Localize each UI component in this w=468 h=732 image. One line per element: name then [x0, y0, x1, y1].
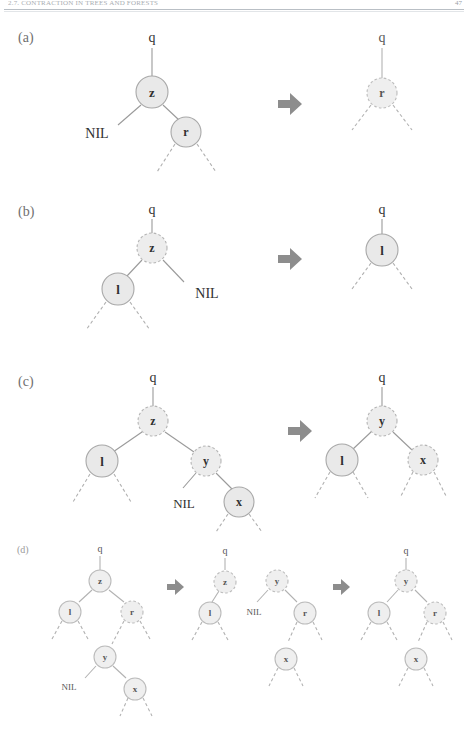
node-l-label-b: l [116, 282, 120, 297]
running-title: 2.7. CONTRACTION IN TREES AND FORESTS [8, 0, 158, 7]
node-z-label-d1: z [98, 576, 102, 586]
edge-l-after-right-b [393, 263, 412, 289]
node-z-label-b: z [149, 241, 155, 255]
label-nil-b: NIL [195, 286, 218, 301]
edge-y-to-l-d3 [387, 590, 398, 602]
edge-z-to-r [163, 105, 179, 120]
edge-x-sub-right-d1 [143, 698, 152, 716]
edge-l-subtree-right-b [130, 302, 150, 330]
figure-panel-d: (d) q z l r y NIL x [0, 536, 468, 732]
edge-x-subtree-right-c [249, 514, 262, 532]
node-x-label-c: x [236, 495, 242, 509]
node-x-after-label-c: x [420, 453, 426, 467]
edge-z-to-nil [118, 105, 141, 125]
edge-l-subtree-left-c [73, 474, 90, 502]
edge-x-sub-left-d1 [120, 698, 128, 716]
edge-x-sub-right-d3 [424, 668, 433, 686]
edge-z-to-l-d2 [212, 591, 219, 602]
label-q-before-c: q [150, 370, 157, 385]
node-r-label-d1: r [130, 607, 134, 617]
label-nil-c: NIL [173, 496, 195, 511]
edge-l-sub-left-d2 [192, 622, 202, 640]
node-l-label-c: l [100, 454, 104, 469]
node-x-label-d3: x [414, 654, 419, 664]
header-rule [4, 9, 464, 10]
node-y-label-c: y [203, 454, 209, 468]
edge-z-to-l-d1 [79, 590, 92, 602]
node-y-after-label-c: y [379, 414, 385, 428]
edge-y-to-x-d1 [113, 666, 126, 678]
label-q-after-b: q [379, 202, 386, 217]
right-arrow-icon [167, 579, 184, 595]
edge-z-to-r-d1 [109, 590, 124, 602]
panel-c-after: q y l x [315, 370, 447, 499]
edge-x-sub-right-d2 [294, 668, 303, 686]
label-nil-d2: NIL [247, 607, 262, 617]
edge-y-to-x-c [216, 473, 232, 489]
edge-r-sub-left-d3 [418, 622, 427, 642]
edge-l-subtree-right-c [114, 474, 131, 502]
node-y-label-d1: y [103, 652, 108, 662]
figure-panel-a: (a) q z NIL r q r [0, 20, 468, 180]
running-header: 2.7. CONTRACTION IN TREES AND FORESTS 47 [0, 0, 468, 12]
edge-l-after-left-b [352, 263, 371, 289]
node-r-label-d3: r [433, 608, 437, 618]
panel-b-after: q l [352, 202, 412, 290]
page-number: 47 [455, 0, 462, 7]
edge-l-after-right-c [353, 472, 368, 498]
edge-l-sub-right-d1 [78, 621, 88, 639]
edge-z-to-l-b [127, 260, 142, 276]
panel-a-diagram: q z NIL r q r [0, 20, 468, 180]
node-y-label-d2: y [275, 576, 280, 586]
edge-r-after-left [352, 105, 371, 130]
edge-l-sub-right-d3 [387, 622, 397, 640]
node-l-after-label-b: l [380, 243, 384, 258]
edge-r-sub-left-d2 [288, 622, 297, 642]
node-z-label-d2: z [223, 577, 227, 587]
edge-r-subtree-left [157, 144, 175, 172]
label-q-d3: q [404, 545, 409, 556]
right-arrow-icon [288, 420, 312, 442]
edge-z-to-l-c [113, 432, 142, 452]
header-rule-secondary [4, 11, 464, 12]
edge-r-sub-left-d1 [112, 621, 124, 644]
panel-b-diagram: q z NIL l q l [0, 192, 468, 352]
edge-r-subtree-right [197, 144, 216, 172]
edge-l-subtree-left-b [86, 302, 106, 330]
node-l-after-label-c: l [340, 453, 344, 468]
edge-r-after-right [393, 105, 412, 130]
edge-l-after-left-c [315, 472, 330, 498]
panel-d-step3: q y l r x [361, 545, 452, 687]
node-z-label-c: z [150, 414, 156, 428]
edge-y-to-x-after-c [393, 432, 412, 450]
right-arrow-icon [278, 248, 302, 270]
edge-l-sub-right-d2 [218, 622, 228, 640]
node-x-label-d1: x [133, 684, 138, 694]
panel-a-after: q r [352, 30, 412, 131]
label-nil-d1: NIL [62, 682, 77, 692]
label-q-before-a: q [149, 30, 156, 45]
figure-panel-c: (c) q z l y NIL x q y [0, 362, 468, 527]
edge-y-to-nil-c [183, 473, 196, 488]
node-y-label-d3: y [404, 576, 409, 586]
panel-d-step2: q z l y NIL r x [192, 545, 322, 687]
edge-x-subtree-left-c [216, 514, 228, 532]
edge-z-to-y-c [165, 432, 194, 452]
edge-x-after-left-c [400, 472, 413, 498]
node-z-label: z [149, 85, 155, 100]
label-nil-a: NIL [85, 126, 108, 141]
edge-y-to-nil-d2 [257, 590, 268, 602]
figure-panel-b: (b) q z NIL l q l [0, 192, 468, 352]
edge-l-sub-left-d3 [361, 622, 371, 640]
panel-d-diagram: q z l r y NIL x [0, 536, 468, 732]
edge-x-after-right-c [434, 472, 447, 498]
label-q-after-a: q [379, 30, 386, 45]
label-q-d1: q [98, 543, 103, 554]
edge-l-sub-left-d1 [52, 621, 62, 639]
edge-r-sub-right-d1 [140, 621, 150, 639]
node-r-label: r [183, 125, 189, 139]
panel-c-diagram: q z l y NIL x q y l [0, 362, 468, 527]
edge-y-to-l-after-c [352, 432, 371, 450]
node-x-label-d2: x [284, 654, 289, 664]
edge-y-to-r-d3 [415, 590, 427, 602]
